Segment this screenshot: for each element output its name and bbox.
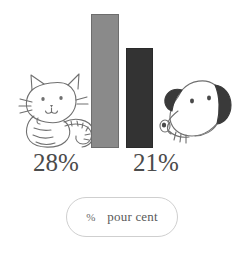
bar-label-cat: 28% [33, 150, 79, 175]
cat-illustration [12, 66, 96, 150]
legend-label: pour cent [107, 209, 158, 225]
dog-illustration [152, 64, 238, 150]
percent-symbol: % [86, 211, 95, 223]
bar-cat [91, 14, 119, 148]
bar-label-dog: 21% [133, 150, 179, 175]
bar-dog [126, 48, 153, 149]
chart-canvas: 28% 21% % pour cent [0, 0, 240, 255]
legend-pill: % pour cent [66, 197, 178, 237]
